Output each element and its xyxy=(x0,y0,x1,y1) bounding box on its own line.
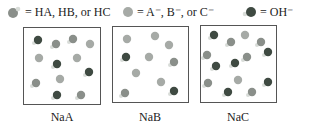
hydroxide-ion xyxy=(229,59,239,68)
weak-acid-molecule xyxy=(255,38,265,47)
conjugate-base-anion xyxy=(234,76,242,84)
weak-acid-molecule xyxy=(119,89,129,98)
conjugate-base-anion xyxy=(35,54,43,62)
weak-acid-molecule xyxy=(75,91,85,100)
conjugate-base-anion xyxy=(145,53,153,61)
hydroxide-ion xyxy=(51,91,61,100)
hydroxide-ion xyxy=(208,31,218,40)
conjugate-base-anion xyxy=(151,32,159,40)
weak-acid-molecule xyxy=(201,51,211,60)
hydroxide-ion xyxy=(51,60,61,69)
weak-acid-molecule xyxy=(202,79,212,88)
hydroxide-ion xyxy=(210,62,220,71)
hydroxide-ion xyxy=(120,53,130,62)
panel-label-naa: NaA xyxy=(22,110,102,125)
conjugate-base-anion xyxy=(123,35,131,43)
weak-acid-molecule xyxy=(67,35,77,44)
hydroxide-ion xyxy=(222,88,232,97)
weak-acid-molecule xyxy=(241,53,251,62)
hydroxide-ion xyxy=(168,87,178,96)
hydroxide-ion xyxy=(262,78,272,87)
weak-acid-molecule xyxy=(168,58,178,67)
weak-acid-molecule xyxy=(30,79,40,88)
weak-acid-molecule xyxy=(246,88,256,97)
conjugate-base-anion xyxy=(241,31,249,39)
conjugate-base-anion xyxy=(56,75,64,83)
panel-label-nac: NaC xyxy=(198,110,278,125)
hydroxide-ion xyxy=(32,36,42,45)
hydroxide-ion xyxy=(262,48,272,57)
conjugate-base-anion xyxy=(86,40,94,48)
weak-acid-molecule xyxy=(50,40,60,49)
conjugate-base-anion xyxy=(132,69,140,77)
conjugate-base-anion xyxy=(157,78,165,86)
conjugate-base-anion xyxy=(165,41,173,49)
hydroxide-ion xyxy=(83,68,93,77)
panel-label-nab: NaB xyxy=(110,110,190,125)
weak-acid-molecule xyxy=(225,38,235,47)
conjugate-base-anion xyxy=(73,54,81,62)
